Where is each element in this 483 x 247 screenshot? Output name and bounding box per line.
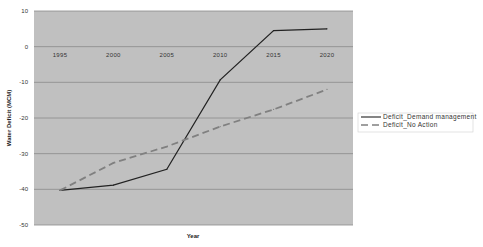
y-axis-ticks: 100-10-20-30-40-50 <box>19 8 28 228</box>
y-tick-label: -20 <box>19 115 28 121</box>
data-point <box>326 28 327 29</box>
data-point <box>220 79 221 80</box>
x-axis-title: Year <box>187 233 200 239</box>
x-category-label: 2020 <box>320 52 335 58</box>
x-category-label: 2000 <box>106 52 121 58</box>
x-category-label: 2010 <box>213 52 228 58</box>
data-point <box>273 109 274 110</box>
data-point <box>113 162 114 163</box>
x-category-label: 1995 <box>53 52 68 58</box>
y-tick-label: 10 <box>21 8 28 14</box>
y-tick-label: 0 <box>25 44 29 50</box>
y-axis-title: Water Deficit (MCM) <box>6 90 12 146</box>
data-point <box>59 190 60 191</box>
line-chart: 100-10-20-30-40-50 199520002005201020152… <box>0 0 483 247</box>
data-point <box>220 126 221 127</box>
y-tick-label: -40 <box>19 186 28 192</box>
data-point <box>166 146 167 147</box>
data-point <box>166 169 167 170</box>
data-point <box>273 30 274 31</box>
y-tick-label: -10 <box>19 79 28 85</box>
y-tick-label: -50 <box>19 222 28 228</box>
legend-label: Deficit_No Action <box>383 121 438 129</box>
data-point <box>113 184 114 185</box>
legend: Deficit_Demand managementDeficit_No Acti… <box>358 113 477 132</box>
y-tick-label: -30 <box>19 151 28 157</box>
x-category-label: 2015 <box>266 52 281 58</box>
data-point <box>326 89 327 90</box>
legend-label: Deficit_Demand management <box>383 113 477 121</box>
x-category-label: 2005 <box>160 52 175 58</box>
